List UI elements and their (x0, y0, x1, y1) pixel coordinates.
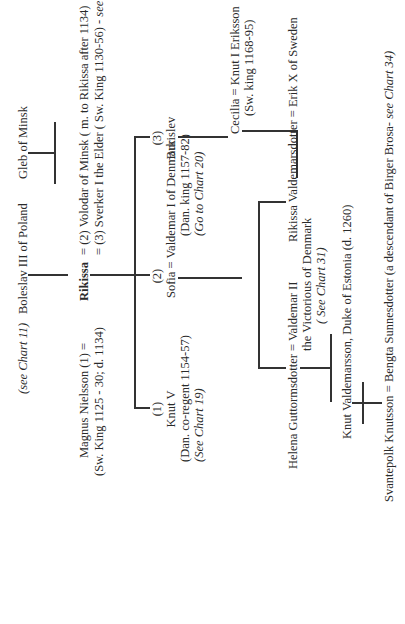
child1-ref: (See Chart 19) (192, 388, 206, 462)
magnus-note: (Sw. King 1125 - 30; d. 1134) (92, 327, 106, 476)
child3-tick (134, 136, 150, 138)
children-bar (134, 137, 136, 409)
rikissa-descent (90, 274, 134, 276)
child1-note: (Dan. co-regent 1154-57) (178, 335, 192, 462)
valdemar2-label: Helena Guttormsdotter = Valdemar II (286, 282, 300, 469)
valdemar2-descent (300, 367, 330, 369)
rikissa-label: Rikissa (77, 262, 91, 301)
sofia-descent (178, 277, 242, 279)
child3-name: Burislev (164, 117, 178, 159)
burislev-descent (178, 136, 228, 138)
child2-number: (2) (150, 269, 164, 284)
sofia-children-bar (258, 202, 260, 369)
child1-number: (1) (150, 402, 164, 417)
valdemar2-hbar (330, 334, 332, 402)
boleslav-label: Boleslav III of Poland (16, 203, 30, 314)
child1-tick (134, 407, 150, 409)
knut-hbar (362, 382, 364, 424)
child2-note: (Dan. king 1157-82) (178, 134, 192, 236)
rikissa-v-tick (258, 201, 286, 203)
cecilia-note: (Sw. king 1168-95) (242, 20, 256, 116)
child2-ref: (Go to Chart 20) (192, 152, 206, 236)
gleb-connector (28, 152, 54, 154)
child2-name: Sofia = Valdemar I of Denmark (164, 140, 178, 298)
knut-descent (352, 402, 382, 404)
gleb-label: Gleb of Minsk (16, 106, 30, 179)
rikissa-valdemarsdotter-label: Rikissa Valdemarsdotter = Erik X of Swed… (286, 17, 300, 242)
child2-tick (134, 274, 150, 276)
svantepolk-label: Svantepolk Knutsson = Bengta Sunnesdotte… (382, 51, 396, 502)
sverker-label: = (3) Sverker I the Elder ( Sw. King 113… (92, 0, 106, 255)
child3-number: (3) (150, 131, 164, 146)
valdemar2-tick (258, 367, 286, 369)
magnus-label: Magnus Nielsson (1) = (77, 343, 91, 458)
genealogy-chart: (see Chart 11) Boleslav III of Poland Gl… (0, 0, 405, 624)
gleb-hbar (54, 122, 56, 184)
volodar-label: = (2) Volodar of Minsk ( m. to Rikissa a… (77, 6, 91, 256)
valdemar2-ref: ( See Chart 31) (314, 247, 328, 324)
valdemar2-line2: the Victorious of Denmark (300, 218, 314, 351)
boleslav-connector (28, 274, 68, 276)
child1-name: Knut V (164, 391, 178, 428)
cecilia-label: Cecilia = Knut I Eriksson (228, 6, 242, 134)
see-chart-11-ref: (see Chart 11) (16, 323, 30, 394)
